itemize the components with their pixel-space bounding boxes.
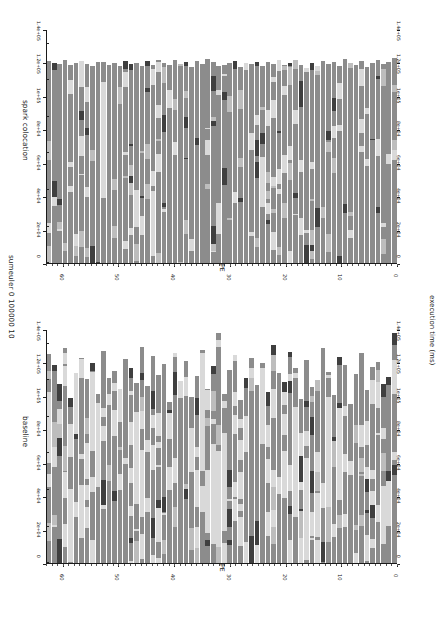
bar-pe[interactable] bbox=[52, 365, 57, 564]
bar-pe[interactable] bbox=[310, 63, 315, 264]
bar-pe[interactable] bbox=[337, 66, 342, 264]
bar-pe[interactable] bbox=[315, 380, 320, 564]
bar-pe[interactable] bbox=[46, 354, 51, 564]
bar-pe[interactable] bbox=[359, 353, 364, 564]
bar-pe[interactable] bbox=[233, 355, 238, 564]
bar-pe[interactable] bbox=[321, 348, 326, 564]
bar-pe[interactable] bbox=[326, 64, 331, 264]
bar-pe[interactable] bbox=[293, 60, 298, 264]
bar-pe[interactable] bbox=[326, 372, 331, 564]
bar-pe[interactable] bbox=[195, 61, 200, 264]
bar-pe[interactable] bbox=[129, 64, 134, 264]
bar-pe[interactable] bbox=[107, 378, 112, 564]
bar-pe[interactable] bbox=[68, 65, 73, 264]
bar-pe[interactable] bbox=[167, 402, 172, 564]
bar-pe[interactable] bbox=[216, 333, 221, 564]
bar-pe[interactable] bbox=[260, 363, 265, 564]
bar-pe[interactable] bbox=[222, 65, 227, 264]
bar-pe[interactable] bbox=[189, 397, 194, 564]
bar-pe[interactable] bbox=[365, 67, 370, 264]
bar-pe[interactable] bbox=[90, 363, 95, 564]
bar-pe[interactable] bbox=[107, 65, 112, 264]
bar-pe[interactable] bbox=[96, 62, 101, 264]
bar-pe[interactable] bbox=[101, 62, 106, 264]
bar-pe[interactable] bbox=[244, 378, 249, 564]
bar-pe[interactable] bbox=[63, 60, 68, 264]
bar-pe[interactable] bbox=[321, 61, 326, 264]
bar-pe[interactable] bbox=[216, 66, 221, 264]
bar-pe[interactable] bbox=[151, 65, 156, 264]
bar-pe[interactable] bbox=[386, 377, 391, 564]
bar-pe[interactable] bbox=[282, 65, 287, 264]
bar-pe[interactable] bbox=[233, 61, 238, 264]
bar-pe[interactable] bbox=[310, 387, 315, 564]
bar-pe[interactable] bbox=[184, 62, 189, 264]
bar-pe[interactable] bbox=[277, 60, 282, 264]
bar-pe[interactable] bbox=[211, 366, 216, 564]
bar-pe[interactable] bbox=[370, 367, 375, 564]
bar-pe[interactable] bbox=[359, 61, 364, 264]
bar-pe[interactable] bbox=[200, 64, 205, 264]
bar-pe[interactable] bbox=[277, 373, 282, 564]
bar-pe[interactable] bbox=[370, 63, 375, 264]
bar-pe[interactable] bbox=[255, 62, 260, 264]
bar-pe[interactable] bbox=[299, 65, 304, 264]
bar-pe[interactable] bbox=[167, 65, 172, 264]
bar-pe[interactable] bbox=[134, 63, 139, 264]
bar-pe[interactable] bbox=[288, 352, 293, 564]
bar-pe[interactable] bbox=[68, 398, 73, 564]
bar-pe[interactable] bbox=[288, 63, 293, 264]
bar-pe[interactable] bbox=[249, 358, 254, 564]
bar-pe[interactable] bbox=[365, 390, 370, 564]
bar-pe[interactable] bbox=[162, 364, 167, 564]
bar-pe[interactable] bbox=[343, 59, 348, 264]
bar-pe[interactable] bbox=[238, 400, 243, 564]
bar-pe[interactable] bbox=[90, 66, 95, 264]
bar-pe[interactable] bbox=[271, 345, 276, 564]
bar-pe[interactable] bbox=[376, 60, 381, 264]
bar-pe[interactable] bbox=[315, 66, 320, 264]
bar-pe[interactable] bbox=[140, 347, 145, 564]
bar-pe[interactable] bbox=[140, 66, 145, 264]
bar-pe[interactable] bbox=[173, 353, 178, 564]
bar-pe[interactable] bbox=[52, 63, 57, 264]
bar-pe[interactable] bbox=[145, 386, 150, 564]
bar-pe[interactable] bbox=[195, 376, 200, 564]
bar-pe[interactable] bbox=[332, 62, 337, 264]
bar-pe[interactable] bbox=[173, 60, 178, 264]
bar-pe[interactable] bbox=[255, 385, 260, 564]
bar-pe[interactable] bbox=[156, 375, 161, 564]
bar-pe[interactable] bbox=[151, 356, 156, 564]
bar-pe[interactable] bbox=[244, 63, 249, 264]
bar-pe[interactable] bbox=[74, 373, 79, 564]
bar-pe[interactable] bbox=[205, 59, 210, 264]
bar-pe[interactable] bbox=[376, 362, 381, 564]
bar-pe[interactable] bbox=[282, 382, 287, 564]
bar-pe[interactable] bbox=[299, 399, 304, 564]
bar-pe[interactable] bbox=[79, 358, 84, 564]
bar-pe[interactable] bbox=[293, 368, 298, 564]
bar-pe[interactable] bbox=[189, 67, 194, 264]
bar-pe[interactable] bbox=[63, 348, 68, 564]
bar-pe[interactable] bbox=[304, 68, 309, 264]
bar-pe[interactable] bbox=[123, 359, 128, 564]
bar-pe[interactable] bbox=[381, 384, 386, 565]
bar-pe[interactable] bbox=[134, 383, 139, 564]
bar-pe[interactable] bbox=[260, 66, 265, 264]
bar-pe[interactable] bbox=[178, 64, 183, 264]
bar-pe[interactable] bbox=[266, 62, 271, 264]
bar-pe[interactable] bbox=[57, 64, 62, 264]
bar-pe[interactable] bbox=[227, 63, 232, 264]
bar-pe[interactable] bbox=[343, 365, 348, 564]
bar-pe[interactable] bbox=[348, 63, 353, 264]
bar-pe[interactable] bbox=[386, 62, 391, 264]
bar-pe[interactable] bbox=[200, 350, 205, 564]
bar-pe[interactable] bbox=[85, 64, 90, 264]
bar-pe[interactable] bbox=[79, 61, 84, 264]
bar-pe[interactable] bbox=[74, 63, 79, 264]
bar-pe[interactable] bbox=[304, 360, 309, 564]
bar-pe[interactable] bbox=[227, 370, 232, 564]
bar-pe[interactable] bbox=[222, 394, 227, 564]
bar-pe[interactable] bbox=[354, 65, 359, 264]
bar-pe[interactable] bbox=[112, 371, 117, 564]
